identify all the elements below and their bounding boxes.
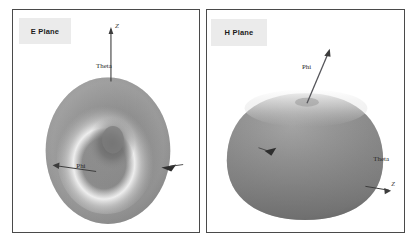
panel-h-plane: Phi Theta Z H Plane <box>206 9 405 233</box>
phi-label: Phi <box>302 63 311 70</box>
e-plane-z-axis-arrowhead <box>109 27 114 34</box>
h-plane-phi-arrowhead <box>324 49 330 57</box>
panel-label-e-plane: E Plane <box>19 18 71 44</box>
h-plane-highlight-crown <box>245 89 368 127</box>
theta-label: Theta <box>96 62 112 69</box>
radiation-pattern-figure: Z Theta Phi E Plane <box>0 0 419 243</box>
phi-label: Phi <box>76 162 85 169</box>
z-axis-label: Z <box>115 22 119 29</box>
e-plane-null-core <box>102 126 124 154</box>
h-plane-theta-arrowhead <box>384 188 391 194</box>
panel-label-h-plane: H Plane <box>211 19 267 46</box>
theta-label: Theta <box>373 155 389 162</box>
panel-e-plane: Z Theta Phi E Plane <box>12 9 200 233</box>
axis-tick-label: Z <box>391 180 395 187</box>
